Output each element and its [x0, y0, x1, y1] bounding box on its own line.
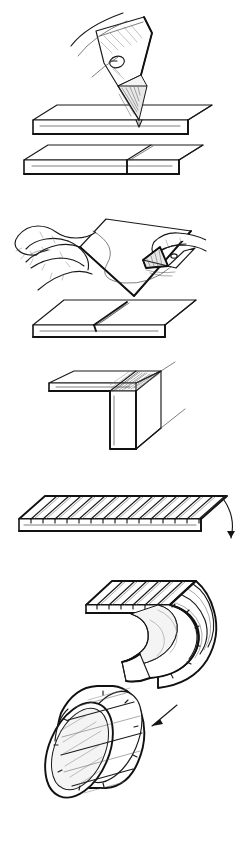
technical-illustration: Scoring and rolling a kerfed sheet into … — [0, 0, 243, 846]
curled-sheet — [86, 581, 216, 688]
straight-result-arrow — [152, 705, 177, 726]
board-top — [33, 105, 212, 134]
panel-knife-cut — [24, 13, 212, 174]
figure-canvas: Scoring and rolling a kerfed sheet into … — [0, 0, 243, 846]
panel-right-angle-fold — [49, 362, 185, 449]
left-hand — [15, 226, 96, 290]
panel-hand-scoring — [15, 219, 206, 337]
panel-rolled-tube — [32, 581, 216, 808]
craft-knife — [71, 13, 152, 120]
board-cut — [24, 145, 203, 174]
panel-kerfed-sheet — [19, 496, 235, 538]
curved-roll-arrow — [224, 500, 235, 538]
finished-tube — [32, 682, 155, 808]
board-scored — [33, 300, 196, 337]
sheet — [80, 219, 191, 296]
